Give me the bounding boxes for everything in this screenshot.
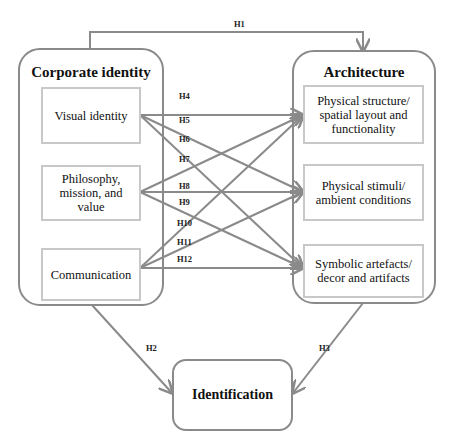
node-symbolic-artefacts: Symbolic artefacts/ decor and artifacts: [303, 244, 424, 298]
label-h9: H9: [179, 197, 190, 207]
label-h3: H3: [319, 343, 330, 353]
label-h6: H6: [179, 134, 190, 144]
label-h12: H12: [177, 254, 192, 264]
label-h1: H1: [234, 19, 245, 29]
node-visual-identity: Visual identity: [41, 87, 141, 144]
label-h5: H5: [179, 115, 190, 125]
node-identification: Identification: [172, 359, 293, 431]
label-h7: H7: [179, 154, 190, 164]
arrow-h2: [92, 305, 172, 393]
node-physical-structure: Physical structure/ spatial layout and f…: [303, 85, 424, 144]
architecture-title: Architecture: [294, 64, 434, 81]
research-model-diagram: Corporate identity Visual identity Philo…: [0, 0, 453, 447]
label-h2: H2: [146, 343, 157, 353]
label-h11: H11: [177, 237, 192, 247]
node-philosophy-mission-value: Philosophy, mission, and value: [41, 165, 141, 221]
label-h8: H8: [179, 181, 190, 191]
label-h10: H10: [177, 218, 192, 228]
node-physical-stimuli: Physical stimuli/ ambient conditions: [303, 164, 424, 221]
corporate-identity-title: Corporate identity: [20, 64, 162, 81]
node-communication: Communication: [41, 248, 141, 301]
label-h4: H4: [179, 91, 190, 101]
